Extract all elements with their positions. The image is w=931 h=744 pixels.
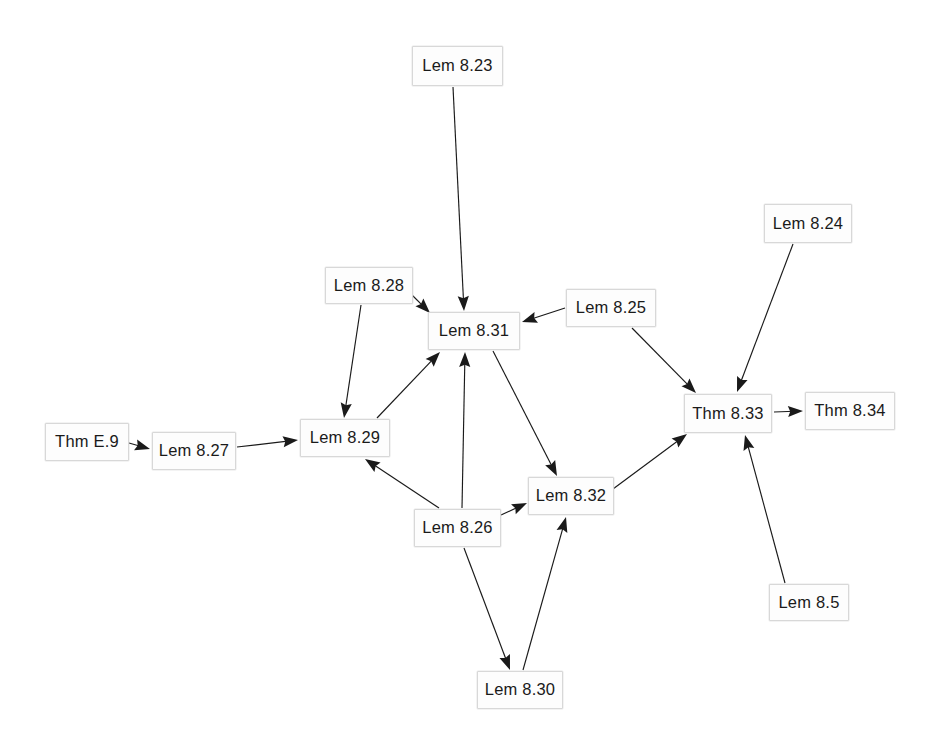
- node-label: Lem 8.26: [422, 519, 492, 537]
- node-lem85[interactable]: Lem 8.5: [769, 584, 849, 621]
- node-thm833[interactable]: Thm 8.33: [684, 394, 772, 433]
- node-label: Lem 8.28: [334, 277, 404, 295]
- node-lem826[interactable]: Lem 8.26: [414, 509, 501, 547]
- node-label: Thm 8.34: [814, 402, 885, 420]
- node-label: Lem 8.5: [778, 594, 839, 612]
- node-label: Lem 8.32: [536, 487, 606, 505]
- node-thme9[interactable]: Thm E.9: [45, 423, 129, 461]
- node-label: Lem 8.25: [576, 299, 646, 317]
- node-lem830[interactable]: Lem 8.30: [477, 671, 563, 709]
- node-thm834[interactable]: Thm 8.34: [805, 392, 895, 430]
- node-label: Lem 8.30: [485, 681, 555, 699]
- node-lem824[interactable]: Lem 8.24: [764, 204, 852, 243]
- node-lem832[interactable]: Lem 8.32: [528, 477, 614, 515]
- node-label: Lem 8.23: [422, 57, 492, 75]
- node-lem827[interactable]: Lem 8.27: [152, 432, 236, 470]
- node-label: Thm E.9: [55, 433, 119, 451]
- node-label: Thm 8.33: [692, 405, 763, 423]
- node-lem831[interactable]: Lem 8.31: [428, 312, 520, 350]
- node-label: Lem 8.24: [773, 215, 843, 233]
- node-label: Lem 8.27: [159, 442, 229, 460]
- node-lem825[interactable]: Lem 8.25: [566, 289, 656, 327]
- node-label: Lem 8.29: [310, 429, 380, 447]
- node-lem828[interactable]: Lem 8.28: [325, 267, 413, 304]
- node-layer: Lem 8.23Lem 8.24Lem 8.28Lem 8.25Lem 8.31…: [0, 0, 931, 744]
- proof-dependency-diagram: Lem 8.23Lem 8.24Lem 8.28Lem 8.25Lem 8.31…: [0, 0, 931, 744]
- node-lem823[interactable]: Lem 8.23: [412, 46, 503, 86]
- node-label: Lem 8.31: [439, 322, 509, 340]
- node-lem829[interactable]: Lem 8.29: [300, 419, 390, 457]
